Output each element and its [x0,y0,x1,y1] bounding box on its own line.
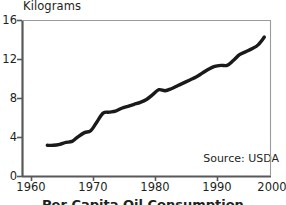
tick-marks [17,21,218,182]
data-series-line [47,37,264,145]
plot-area [0,0,286,205]
chart-figure: Kilograms 16 12 8 4 0 1960 1970 1980 199… [0,0,286,205]
